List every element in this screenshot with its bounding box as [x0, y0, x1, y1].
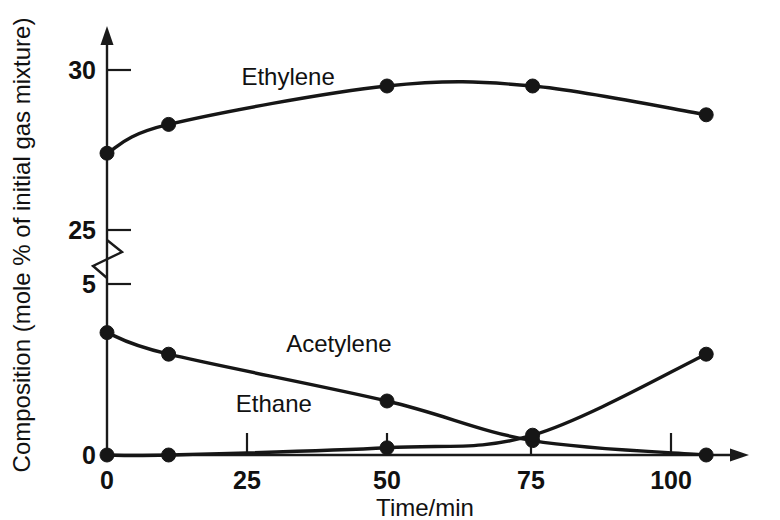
- series-ethylene: [100, 79, 713, 160]
- x-tick-label-25: 25: [233, 466, 261, 494]
- series-label-ethylene: Ethylene: [241, 63, 334, 90]
- data-point: [526, 79, 540, 93]
- data-point: [380, 441, 394, 455]
- series-markers-acetylene: [100, 326, 713, 462]
- y-tick-label-30: 30: [68, 56, 96, 84]
- x-tick-label-0: 0: [100, 466, 114, 494]
- data-point: [699, 448, 713, 462]
- data-point: [162, 117, 176, 131]
- data-point: [699, 108, 713, 122]
- data-point: [380, 394, 394, 408]
- data-point: [100, 146, 114, 160]
- y-axis-title: Composition (mole % of initial gas mixtu…: [8, 18, 35, 473]
- data-point: [526, 428, 540, 442]
- x-axis-title: Time/min: [376, 494, 474, 520]
- data-point: [162, 347, 176, 361]
- series-line-acetylene: [107, 333, 706, 455]
- series-acetylene: [100, 326, 713, 462]
- x-tick-label-50: 50: [373, 466, 401, 494]
- x-axis-arrowhead: [730, 449, 749, 462]
- series-label-ethane: Ethane: [236, 390, 312, 417]
- series-label-acetylene: Acetylene: [286, 330, 391, 357]
- chart-canvas: Composition (mole % of initial gas mixtu…: [0, 0, 780, 520]
- y-tick-label-0: 0: [82, 441, 96, 469]
- data-point: [162, 448, 176, 462]
- data-point: [100, 326, 114, 340]
- y-tick-label-5: 5: [82, 270, 96, 298]
- data-point: [699, 347, 713, 361]
- x-tick-label-100: 100: [650, 466, 692, 494]
- data-point: [380, 79, 394, 93]
- data-point: [100, 448, 114, 462]
- series-line-ethylene: [107, 82, 706, 153]
- y-tick-label-25: 25: [68, 216, 96, 244]
- chart-figure: Composition (mole % of initial gas mixtu…: [0, 0, 780, 520]
- x-tick-label-75: 75: [517, 466, 545, 494]
- y-axis-arrowhead: [101, 26, 114, 45]
